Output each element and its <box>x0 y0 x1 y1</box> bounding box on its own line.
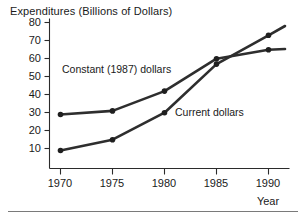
x-tick-label: 1970 <box>48 177 72 189</box>
x-axis-tick-labels: 1970 1975 1980 1985 1990 <box>48 177 280 189</box>
data-point <box>266 33 272 39</box>
series-annotation-constant: Constant (1987) dollars <box>62 63 171 75</box>
y-axis-tick-labels: 80 70 60 50 40 30 20 10 <box>29 16 41 154</box>
series-line-current <box>61 26 286 151</box>
data-point <box>214 61 220 67</box>
line-chart-plot: 80 70 60 50 40 30 20 10 1970 1975 1980 1… <box>0 0 306 218</box>
x-axis-ticks <box>61 169 269 175</box>
chart-figure: Expenditures (Billions of Dollars) 80 70… <box>0 0 306 218</box>
data-point <box>162 110 168 116</box>
data-point <box>110 137 116 143</box>
y-tick-label: 60 <box>29 52 41 64</box>
y-tick-label: 70 <box>29 34 41 46</box>
data-point <box>58 112 64 118</box>
data-point <box>266 47 272 53</box>
x-tick-label: 1990 <box>256 177 280 189</box>
y-tick-label: 30 <box>29 106 41 118</box>
y-tick-label: 40 <box>29 88 41 100</box>
y-axis-ticks <box>45 23 50 149</box>
y-tick-label: 10 <box>29 142 41 154</box>
x-tick-label: 1975 <box>100 177 124 189</box>
y-tick-label: 20 <box>29 124 41 136</box>
x-tick-label: 1985 <box>204 177 228 189</box>
series-annotation-current: Current dollars <box>175 106 244 118</box>
y-tick-label: 80 <box>29 16 41 28</box>
data-point <box>110 108 116 114</box>
x-tick-label: 1980 <box>152 177 176 189</box>
data-point <box>214 56 220 62</box>
data-point <box>162 88 168 94</box>
data-point <box>58 148 64 154</box>
y-tick-label: 50 <box>29 70 41 82</box>
series-current-dollars <box>58 26 285 153</box>
bottom-divider <box>8 211 298 212</box>
x-axis-title: Year <box>257 195 280 207</box>
